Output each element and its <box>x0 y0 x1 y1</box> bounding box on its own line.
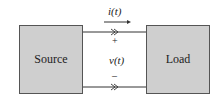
minus-sign: – <box>112 70 117 81</box>
plus-sign: + <box>112 35 118 46</box>
current-label: i(t) <box>108 5 121 17</box>
voltage-label: v(t) <box>109 54 124 66</box>
